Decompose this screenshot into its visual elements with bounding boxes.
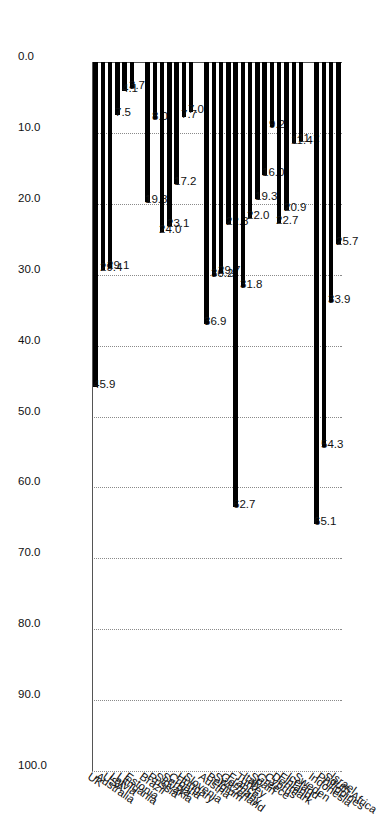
value-tick-label: 30.0 — [18, 263, 40, 275]
bar-item[interactable]: 4.1 — [122, 62, 126, 771]
category-axis-line — [92, 62, 94, 771]
bar[interactable] — [204, 62, 208, 324]
bar[interactable] — [101, 62, 105, 270]
bar-item[interactable]: 9.2 — [270, 62, 274, 771]
value-tick: 0.0 — [18, 62, 19, 63]
bar-item[interactable]: 25.7 — [336, 62, 340, 771]
bar-item[interactable]: 20.9 — [284, 62, 288, 771]
bar-item[interactable]: 11.2 — [299, 62, 303, 771]
bar-item[interactable]: 45.9 — [93, 62, 97, 771]
bar-item[interactable]: 29.1 — [108, 62, 112, 771]
bar-item[interactable]: 65.1 — [314, 62, 318, 771]
value-tick-label: 70.0 — [18, 546, 40, 558]
value-tick: 60.0 — [18, 487, 19, 488]
bar[interactable] — [314, 62, 318, 524]
bar-item[interactable]: 19.8 — [145, 62, 149, 771]
bar-item[interactable]: 62.7 — [233, 62, 237, 771]
value-tick-label: 60.0 — [18, 475, 40, 487]
bar[interactable] — [329, 62, 333, 302]
bar[interactable] — [219, 62, 223, 273]
bar-item[interactable]: 22.7 — [277, 62, 281, 771]
value-tick-label: 90.0 — [18, 688, 40, 700]
bar-item[interactable]: 24.0 — [160, 62, 164, 771]
bar[interactable] — [255, 62, 259, 199]
value-tick: 30.0 — [18, 275, 19, 276]
value-tick-label: 50.0 — [18, 405, 40, 417]
bar[interactable] — [336, 62, 340, 244]
bar[interactable] — [241, 62, 245, 287]
bar[interactable] — [284, 62, 288, 210]
value-tick: 100.0 — [18, 771, 19, 772]
value-tick: 10.0 — [18, 133, 19, 134]
bar[interactable] — [226, 62, 230, 224]
bar[interactable] — [277, 62, 281, 223]
value-tick: 90.0 — [18, 700, 19, 701]
bar-item[interactable]: 36.9 — [204, 62, 208, 771]
bar-value-label: 7.0 — [188, 103, 204, 115]
value-axis-ticks: 0.010.020.030.040.050.060.070.080.090.01… — [0, 62, 92, 771]
bar[interactable] — [262, 62, 266, 175]
plot-area: 45.929.429.17.54.13.719.88.024.023.117.2… — [92, 62, 342, 771]
bar-item[interactable]: 23.1 — [167, 62, 171, 771]
bar[interactable] — [322, 62, 326, 447]
bar-item[interactable]: 29.7 — [219, 62, 223, 771]
bar-item[interactable]: 33.9 — [329, 62, 333, 771]
bar[interactable] — [174, 62, 178, 184]
bar-item[interactable]: 29.4 — [101, 62, 105, 771]
bar[interactable] — [145, 62, 149, 202]
bar[interactable] — [233, 62, 237, 507]
value-tick: 70.0 — [18, 558, 19, 559]
bar-item[interactable]: 7.0 — [189, 62, 193, 771]
bar-item[interactable]: 22.0 — [248, 62, 252, 771]
bar-item[interactable]: 16.0 — [262, 62, 266, 771]
bar-item[interactable]: 19.3 — [255, 62, 259, 771]
bar-item[interactable]: 22.8 — [226, 62, 230, 771]
value-tick: 20.0 — [18, 204, 19, 205]
value-tick-label: 0.0 — [18, 50, 34, 62]
value-tick-label: 40.0 — [18, 334, 40, 346]
bar-item[interactable]: 54.3 — [322, 62, 326, 771]
category-axis-labels: UKAustraliaUSALatviaLithuaniaEstoniaBraz… — [92, 775, 342, 818]
bar-value-label: 3.7 — [129, 79, 145, 91]
bar[interactable] — [248, 62, 252, 218]
bar-item[interactable]: 31.8 — [241, 62, 245, 771]
bar-value-label: 25.7 — [336, 235, 358, 247]
bar-item[interactable]: 3.7 — [130, 62, 134, 771]
bar[interactable] — [212, 62, 216, 276]
value-tick-label: 20.0 — [18, 192, 40, 204]
bar-item[interactable]: 7.5 — [115, 62, 119, 771]
value-tick: 50.0 — [18, 417, 19, 418]
value-tick-label: 100.0 — [18, 759, 47, 771]
bar-item[interactable]: 8.0 — [153, 62, 157, 771]
value-tick: 40.0 — [18, 346, 19, 347]
bar[interactable] — [299, 62, 303, 141]
bar-item[interactable]: 30.2 — [212, 62, 216, 771]
bar[interactable] — [93, 62, 97, 387]
bar-item[interactable]: 17.2 — [174, 62, 178, 771]
bar-item[interactable]: 7.7 — [182, 62, 186, 771]
bar[interactable] — [108, 62, 112, 268]
value-tick-label: 10.0 — [18, 121, 40, 133]
bar[interactable] — [167, 62, 171, 226]
bar-item[interactable]: 11.4 — [292, 62, 296, 771]
value-tick-label: 80.0 — [18, 617, 40, 629]
bar[interactable] — [160, 62, 164, 232]
bar[interactable] — [292, 62, 296, 143]
value-tick: 80.0 — [18, 629, 19, 630]
